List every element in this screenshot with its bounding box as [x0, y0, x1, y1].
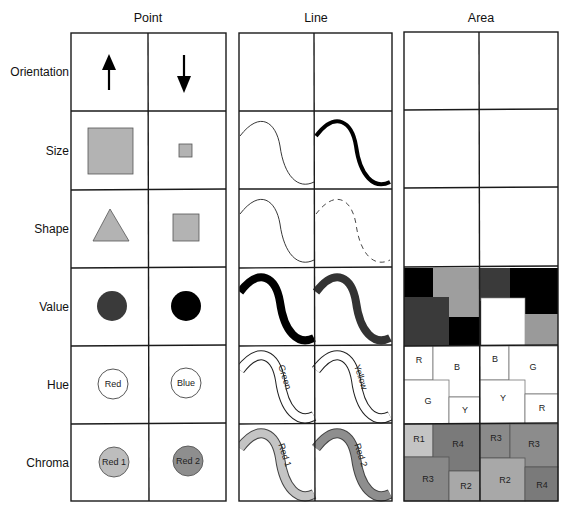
svg-text:R3: R3	[528, 439, 540, 449]
shape-square	[173, 214, 199, 241]
svg-text:R4: R4	[536, 480, 548, 490]
line-chroma-red1: Red 1	[240, 433, 314, 496]
value-black-circle	[171, 291, 201, 321]
row-label-orientation: Orientation	[10, 65, 69, 79]
line-chroma-red2: Red 2	[316, 433, 390, 496]
line-value-black	[240, 277, 314, 340]
row-label-shape: Shape	[34, 222, 69, 236]
svg-text:G: G	[529, 362, 536, 372]
svg-text:R3: R3	[490, 433, 502, 443]
visual-variables-diagram: Point Line Area Orientation Size Shape V…	[0, 0, 568, 509]
column-header-area: Area	[468, 11, 494, 25]
area-value-cell	[404, 268, 558, 346]
svg-text:Red 1: Red 1	[102, 457, 126, 467]
area-hue-cell	[404, 346, 558, 424]
shape-triangle	[93, 209, 129, 241]
svg-text:R4: R4	[452, 439, 464, 449]
column-header-line: Line	[304, 11, 328, 25]
hue-red-circle: Red	[98, 369, 128, 399]
svg-text:Red 2: Red 2	[176, 456, 200, 466]
point-grid	[71, 33, 226, 501]
size-large-square	[88, 128, 133, 174]
svg-text:R2: R2	[460, 481, 472, 491]
svg-text:B: B	[492, 354, 498, 364]
line-shape-dashed	[316, 199, 390, 262]
hue-blue-circle: Blue	[171, 368, 201, 398]
line-shape-solid	[240, 199, 314, 262]
size-small-square	[179, 144, 192, 157]
svg-text:B: B	[454, 362, 460, 372]
line-hue-green: Green	[240, 355, 314, 418]
chroma-red2-circle: Red 2	[173, 446, 203, 476]
arrow-up-icon	[102, 54, 116, 90]
svg-text:Blue: Blue	[177, 378, 195, 388]
column-header-point: Point	[134, 11, 163, 25]
arrow-down-icon	[177, 55, 191, 93]
svg-text:G: G	[424, 396, 431, 406]
value-dark-gray-circle	[97, 291, 127, 321]
svg-text:Red: Red	[105, 379, 122, 389]
row-label-chroma: Chroma	[26, 456, 69, 470]
chroma-red1-circle: Red 1	[99, 447, 129, 477]
area-chroma-cell	[404, 424, 558, 501]
line-size-thin	[240, 121, 314, 184]
row-label-size: Size	[46, 144, 70, 158]
svg-text:R3: R3	[422, 474, 434, 484]
line-value-dark-gray	[316, 277, 390, 340]
svg-text:Y: Y	[500, 393, 506, 403]
line-hue-yellow: Yellow	[316, 355, 390, 418]
svg-text:R: R	[416, 355, 423, 365]
line-size-thick	[316, 121, 390, 184]
svg-text:R: R	[539, 403, 546, 413]
row-label-hue: Hue	[47, 378, 69, 392]
svg-text:R1: R1	[413, 434, 425, 444]
svg-text:R2: R2	[499, 475, 511, 485]
row-label-value: Value	[39, 300, 69, 314]
svg-text:Y: Y	[462, 405, 468, 415]
